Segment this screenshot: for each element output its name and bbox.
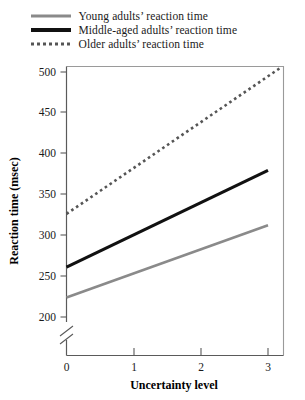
plot-area: 500 450 400 350 300 250 200 0 1 2 3 [0,0,305,400]
y-axis-ticks [61,72,67,317]
x-tick-label-0: 0 [64,361,70,373]
series-line-middle-aged [67,170,269,267]
x-tick-label-2: 2 [198,361,204,373]
y-axis-tick-labels: 500 450 400 350 300 250 200 [39,66,57,323]
y-tick-label-300: 300 [39,229,57,241]
y-tick-label-250: 250 [39,270,57,282]
y-axis-title: Reaction time (msec) [7,157,21,264]
y-tick-label-200: 200 [39,311,57,323]
x-axis-tick-labels: 0 1 2 3 [64,361,272,373]
y-tick-label-500: 500 [39,66,57,78]
figure-container: Young adults’ reaction time Middle-aged … [0,0,305,400]
x-axis-title: Uncertainty level [130,378,218,392]
y-tick-label-450: 450 [39,106,57,118]
line-chart: 500 450 400 350 300 250 200 0 1 2 3 [0,0,305,400]
series-line-older [67,67,282,214]
x-tick-label-1: 1 [131,361,137,373]
y-tick-label-350: 350 [39,188,57,200]
series-line-young [67,225,269,297]
x-tick-label-3: 3 [265,361,271,373]
y-tick-label-400: 400 [39,147,57,159]
x-axis-ticks [134,348,268,356]
plot-frame [67,67,284,356]
